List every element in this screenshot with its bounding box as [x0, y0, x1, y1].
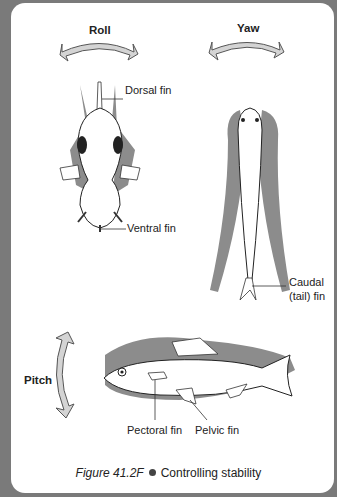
figure-number: Figure 41.2F — [76, 466, 144, 480]
stability-diagram — [0, 0, 337, 497]
pitch-arrow-icon — [56, 332, 74, 418]
figure-title: Controlling stability — [161, 466, 262, 480]
caudal-fin-label-1: Caudal — [289, 276, 324, 288]
fish-front-view — [60, 82, 140, 232]
pectoral-fin-label: Pectoral fin — [127, 424, 182, 436]
bullet-icon — [149, 469, 156, 476]
fish-side-view — [104, 337, 295, 404]
fish-top-view — [210, 108, 290, 300]
figure-caption: Figure 41.2FControlling stability — [0, 466, 337, 480]
yaw-arrow-icon — [209, 42, 284, 60]
roll-arrow-icon — [60, 44, 138, 62]
pitch-label: Pitch — [24, 374, 52, 386]
dorsal-fin-label: Dorsal fin — [125, 84, 171, 96]
roll-label: Roll — [89, 24, 111, 36]
pelvic-fin-label: Pelvic fin — [195, 424, 239, 436]
caudal-fin-label-2: (tail) fin — [289, 290, 325, 302]
ventral-fin-label: Ventral fin — [127, 222, 176, 234]
yaw-label: Yaw — [237, 22, 259, 34]
